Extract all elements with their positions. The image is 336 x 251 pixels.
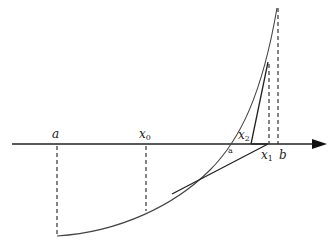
diagram-canvas: a x0 x2 x1 b a bbox=[0, 0, 336, 251]
axis-arrow-icon bbox=[312, 139, 327, 149]
label-b: b bbox=[279, 148, 287, 162]
label-x0: x0 bbox=[139, 127, 151, 142]
label-a: a bbox=[52, 127, 59, 141]
tangent-line-1 bbox=[172, 144, 268, 194]
newton-method-diagram: a x0 x2 x1 b a bbox=[0, 0, 336, 251]
tangent-line-2 bbox=[251, 62, 268, 144]
label-x1: x1 bbox=[261, 148, 273, 163]
function-curve bbox=[57, 8, 277, 236]
label-small-a: a bbox=[228, 146, 233, 155]
label-x2: x2 bbox=[238, 128, 250, 143]
